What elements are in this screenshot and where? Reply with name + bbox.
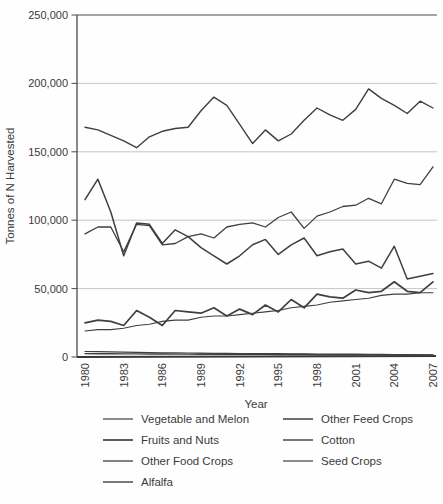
y-tick-label-0: 0	[62, 351, 68, 363]
y-axis-ticks	[72, 15, 78, 357]
legend-label-fruits-and-nuts: Fruits and Nuts	[141, 434, 219, 446]
x-tick-label-2004: 2004	[388, 363, 400, 387]
legend-item-seed-crops: Seed Crops	[283, 455, 382, 467]
x-tick-label-2007: 2007	[427, 363, 439, 387]
legend: Vegetable and MelonFruits and NutsOther …	[103, 413, 413, 488]
legend-label-alfalfa: Alfalfa	[141, 476, 174, 488]
series-line-other-feed-crops	[85, 179, 433, 279]
x-axis-tick-labels: 1980198319861989199219951998200120042007	[79, 363, 439, 387]
x-tick-label-1998: 1998	[311, 363, 323, 387]
legend-label-other-feed-crops: Other Feed Crops	[321, 413, 413, 425]
data-series	[85, 89, 433, 355]
legend-label-vegetable-and-melon: Vegetable and Melon	[141, 413, 249, 425]
x-tick-label-1983: 1983	[118, 363, 130, 387]
x-tick-label-2001: 2001	[350, 363, 362, 387]
legend-label-other-food-crops: Other Food Crops	[141, 455, 233, 467]
y-tick-label-50000: 50,000	[34, 283, 68, 295]
x-tick-label-1989: 1989	[195, 363, 207, 387]
legend-label-seed-crops: Seed Crops	[321, 455, 382, 467]
y-tick-label-250000: 250,000	[28, 9, 68, 21]
figure: 050,000100,000150,000200,000250,000 1980…	[0, 0, 443, 504]
x-tick-label-1980: 1980	[79, 363, 91, 387]
series-line-alfalfa	[85, 89, 433, 148]
legend-label-cotton: Cotton	[321, 434, 355, 446]
legend-item-vegetable-and-melon: Vegetable and Melon	[103, 413, 249, 425]
legend-item-alfalfa: Alfalfa	[103, 476, 174, 488]
x-tick-label-1986: 1986	[156, 363, 168, 387]
x-tick-label-1995: 1995	[272, 363, 284, 387]
series-line-vegetable-and-melon	[85, 293, 433, 331]
y-tick-label-150000: 150,000	[28, 146, 68, 158]
x-tick-label-1992: 1992	[234, 363, 246, 387]
y-tick-label-100000: 100,000	[28, 214, 68, 226]
x-axis-title: Year	[244, 398, 267, 410]
legend-item-other-feed-crops: Other Feed Crops	[283, 413, 413, 425]
y-axis-tick-labels: 050,000100,000150,000200,000250,000	[28, 9, 68, 363]
legend-item-other-food-crops: Other Food Crops	[103, 455, 233, 467]
x-axis-line	[77, 356, 436, 357]
legend-item-cotton: Cotton	[283, 434, 355, 446]
y-tick-label-200000: 200,000	[28, 77, 68, 89]
line-chart: 050,000100,000150,000200,000250,000 1980…	[0, 0, 443, 504]
gridlines	[77, 83, 437, 288]
y-axis-title: Tonnes of N Harvested	[4, 128, 16, 245]
legend-item-fruits-and-nuts: Fruits and Nuts	[103, 434, 219, 446]
series-line-other-food-crops	[85, 167, 433, 252]
